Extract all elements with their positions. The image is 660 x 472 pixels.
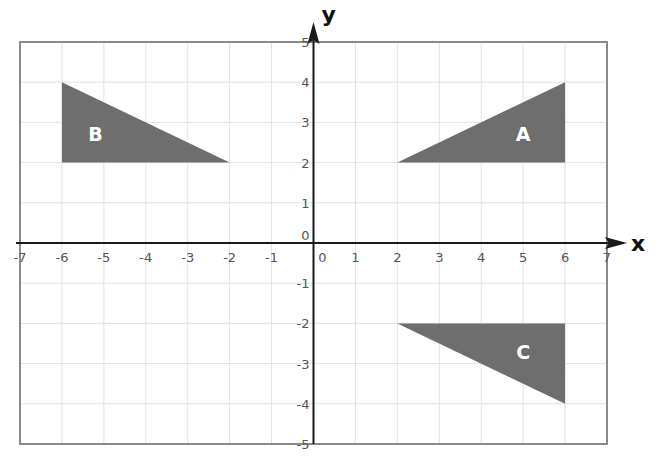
y-tick-label: -1 — [297, 276, 310, 291]
coordinate-grid-diagram: ABC x y -7-6-5-4-3-2-101234567 543210-1-… — [0, 0, 660, 472]
y-tick-label: -3 — [297, 357, 310, 372]
y-tick-label: -5 — [297, 437, 310, 452]
x-tick-label: -4 — [139, 250, 152, 265]
x-tick-label: 5 — [519, 250, 527, 265]
triangle-label-c: C — [516, 341, 530, 363]
x-tick-label: 3 — [435, 250, 443, 265]
x-axis-label: x — [631, 231, 645, 256]
x-tick-label: -6 — [55, 250, 68, 265]
x-tick-label: 4 — [477, 250, 485, 265]
plot-area: ABC x y -7-6-5-4-3-2-101234567 543210-1-… — [0, 0, 660, 472]
triangle-label-a: A — [516, 123, 531, 145]
y-tick-label: 2 — [301, 156, 309, 171]
x-tick-labels: -7-6-5-4-3-2-101234567 — [14, 250, 612, 265]
y-tick-label: -4 — [297, 397, 310, 412]
y-tick-label: 3 — [301, 115, 309, 130]
x-tick-label: -3 — [181, 250, 194, 265]
x-tick-label: 2 — [393, 250, 401, 265]
y-tick-label: 1 — [301, 196, 309, 211]
triangle-label-b: B — [88, 123, 102, 145]
y-axis-label: y — [322, 2, 336, 27]
x-tick-label: -2 — [223, 250, 236, 265]
x-tick-label: -7 — [14, 250, 27, 265]
y-tick-label: 5 — [301, 35, 309, 50]
x-tick-label: 7 — [603, 250, 611, 265]
y-tick-label: 4 — [301, 75, 309, 90]
x-tick-label: 1 — [351, 250, 359, 265]
x-tick-label: 0 — [318, 250, 326, 265]
x-tick-label: -1 — [265, 250, 278, 265]
y-tick-label: -2 — [297, 316, 310, 331]
y-tick-label: 0 — [301, 228, 309, 243]
x-tick-label: 6 — [561, 250, 569, 265]
x-tick-label: -5 — [97, 250, 110, 265]
